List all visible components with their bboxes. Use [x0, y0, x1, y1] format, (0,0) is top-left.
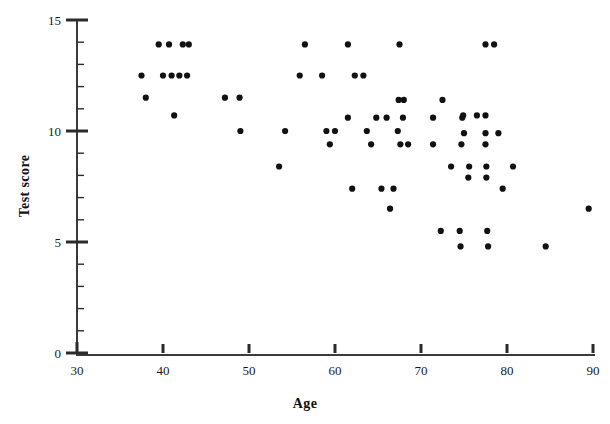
data-point — [282, 128, 288, 134]
scatter-plot-figure: 051015 30405060708090 Age Test score — [0, 0, 610, 424]
data-point — [384, 115, 390, 121]
data-point — [483, 175, 489, 181]
data-point — [184, 72, 190, 78]
data-point — [171, 112, 177, 118]
x-axis-tick-label: 40 — [157, 363, 170, 378]
data-point — [396, 41, 402, 47]
data-point — [352, 72, 358, 78]
data-point — [483, 163, 489, 169]
data-point — [180, 41, 186, 47]
data-point-series — [138, 41, 591, 249]
data-point — [387, 206, 393, 212]
y-axis-title: Test score — [17, 106, 33, 266]
data-point — [400, 115, 406, 121]
data-point — [395, 128, 401, 134]
data-point — [276, 163, 282, 169]
data-point — [345, 41, 351, 47]
data-point — [401, 97, 407, 103]
x-axis-tick-labels: 30405060708090 — [71, 363, 600, 378]
x-axis-tick-label: 90 — [587, 363, 600, 378]
data-point — [482, 141, 488, 147]
data-point — [373, 115, 379, 121]
x-axis-tick-label: 70 — [415, 363, 428, 378]
data-point — [166, 41, 172, 47]
data-point — [186, 41, 192, 47]
data-point — [143, 95, 149, 101]
data-point — [495, 130, 501, 136]
y-axis-tick-label: 15 — [48, 13, 61, 28]
data-point — [500, 186, 506, 192]
data-point — [349, 186, 355, 192]
data-point — [345, 115, 351, 121]
plot-canvas: 051015 30405060708090 — [0, 0, 610, 424]
data-point — [474, 112, 480, 118]
axis-lines — [76, 20, 595, 355]
y-axis-tick-label: 0 — [55, 346, 62, 361]
data-point — [323, 128, 329, 134]
y-axis-tick-labels: 051015 — [48, 13, 61, 361]
data-point — [364, 128, 370, 134]
data-point — [458, 141, 464, 147]
data-point — [457, 228, 463, 234]
data-point — [319, 72, 325, 78]
data-point — [482, 112, 488, 118]
data-point — [378, 186, 384, 192]
data-point — [482, 130, 488, 136]
x-axis-tick-label: 80 — [501, 363, 514, 378]
x-axis-tick-label: 50 — [243, 363, 256, 378]
data-point — [543, 243, 549, 249]
data-point — [491, 41, 497, 47]
data-point — [465, 175, 471, 181]
data-point — [368, 141, 374, 147]
data-point — [236, 95, 242, 101]
data-point — [222, 95, 228, 101]
data-point — [482, 41, 488, 47]
data-point — [360, 72, 366, 78]
data-point — [297, 72, 303, 78]
data-point — [466, 163, 472, 169]
data-point — [460, 112, 466, 118]
data-point — [510, 163, 516, 169]
data-point — [327, 141, 333, 147]
data-point — [332, 128, 338, 134]
x-axis-tick-label: 30 — [71, 363, 84, 378]
data-point — [156, 41, 162, 47]
data-point — [448, 163, 454, 169]
data-point — [430, 141, 436, 147]
data-point — [439, 97, 445, 103]
data-point — [405, 141, 411, 147]
data-point — [461, 130, 467, 136]
data-point — [430, 115, 436, 121]
data-point — [169, 72, 175, 78]
x-axis-tick-label: 60 — [329, 363, 342, 378]
data-point — [438, 228, 444, 234]
data-point — [397, 141, 403, 147]
data-point — [390, 186, 396, 192]
data-point — [176, 72, 182, 78]
x-axis-ticks — [77, 342, 593, 353]
data-point — [160, 72, 166, 78]
data-point — [237, 128, 243, 134]
data-point — [138, 72, 144, 78]
data-point — [457, 243, 463, 249]
x-axis-title: Age — [0, 396, 610, 412]
data-point — [586, 206, 592, 212]
y-axis-tick-label: 10 — [48, 124, 61, 139]
data-point — [484, 228, 490, 234]
data-point — [302, 41, 308, 47]
data-point — [485, 243, 491, 249]
y-axis-tick-label: 5 — [55, 235, 62, 250]
